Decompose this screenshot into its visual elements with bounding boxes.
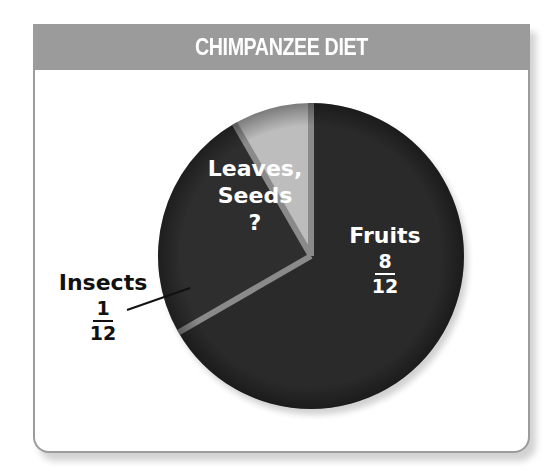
fruits-label-name: Fruits xyxy=(345,225,425,247)
leaves-seeds-label: Leaves, Seeds ? xyxy=(200,158,310,234)
fruits-fraction: 8 12 xyxy=(345,252,425,296)
fruits-denominator: 12 xyxy=(372,275,398,296)
leaves-label-line2: Seeds xyxy=(200,185,310,207)
insects-numerator: 1 xyxy=(93,299,112,322)
pie-chart xyxy=(0,0,560,474)
leaves-label-line1: Leaves, xyxy=(200,158,310,180)
leaves-label-value: ? xyxy=(200,212,310,234)
insects-denominator: 12 xyxy=(90,322,116,343)
fruits-label: Fruits 8 12 xyxy=(345,225,425,296)
insects-label: Insects 1 12 xyxy=(58,272,148,343)
fruits-numerator: 8 xyxy=(375,252,394,275)
insects-fraction: 1 12 xyxy=(58,299,148,343)
insects-label-name: Insects xyxy=(58,272,148,294)
